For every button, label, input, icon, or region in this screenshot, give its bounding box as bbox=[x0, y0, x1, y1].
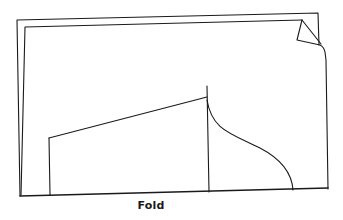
corner-flap bbox=[297, 20, 328, 189]
pattern-left-edge bbox=[49, 138, 50, 195]
inner-sheet bbox=[21, 20, 302, 195]
outer-sheet bbox=[17, 13, 319, 196]
pattern-top-edge bbox=[49, 97, 207, 138]
pattern-curved-edge bbox=[207, 100, 293, 190]
fold-label: Fold bbox=[0, 199, 302, 212]
fold-diagram: Fold bbox=[0, 0, 343, 220]
fold-diagram-drawing bbox=[0, 0, 343, 220]
fold-line bbox=[20, 188, 328, 196]
